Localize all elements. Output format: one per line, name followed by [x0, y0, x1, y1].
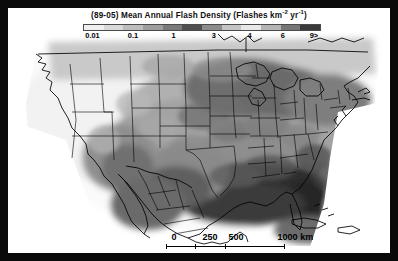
colorbar-segment-5 [222, 25, 242, 30]
colorbar-segment-8 [281, 25, 301, 30]
scale-bar-tick-1 [195, 244, 196, 249]
colorbar-tick-0.01: 0.01 [85, 31, 99, 40]
scale-bar-label-0: 0 [171, 232, 176, 242]
colorbar-segment-4 [202, 25, 222, 30]
colorbar-segment-3 [182, 25, 202, 30]
colorbar-segment-2 [163, 25, 183, 30]
colorbar-tick-3: 3 [212, 31, 216, 40]
legend-title: (89-05) Mean Annual Flash Density (Flash… [8, 9, 390, 20]
colorbar-segment-1 [143, 25, 163, 30]
legend: (89-05) Mean Annual Flash Density (Flash… [8, 8, 390, 44]
colorbar[interactable] [83, 24, 321, 31]
scale-bar-label-3: 1000 km [278, 232, 314, 242]
colorbar-segment-0.1 [104, 25, 124, 30]
scale-bar-label-1: 250 [202, 232, 217, 242]
colorbar-tick-9: 9> [310, 31, 318, 40]
scale-bar-label-2: 500 [228, 232, 243, 242]
colorbar-tick-1: 1 [171, 31, 175, 40]
colorbar-segment-9 [300, 25, 320, 30]
map-svg [8, 8, 390, 253]
figure-frame: (89-05) Mean Annual Flash Density (Flash… [0, 0, 398, 261]
scale-bar-tick-3 [284, 244, 285, 249]
colorbar-tick-4: 4 [248, 31, 252, 40]
colorbar-tick-0.1: 0.1 [128, 31, 138, 40]
colorbar-tick-labels: 0.010.113469> [83, 31, 321, 42]
scale-bar-rule [166, 244, 284, 247]
map-canvas: (89-05) Mean Annual Flash Density (Flash… [8, 8, 390, 253]
colorbar-tick-6: 6 [281, 31, 285, 40]
scale-bar: 02505001000 km [158, 232, 298, 252]
colorbar-segment-7 [261, 25, 281, 30]
flash-density-map [8, 8, 390, 253]
colorbar-segment-0.3 [123, 25, 143, 30]
scale-bar-tick-0 [166, 244, 167, 249]
exponent-km: -2 [282, 9, 288, 15]
exponent-yr: -1 [298, 9, 304, 15]
scale-bar-tick-2 [225, 244, 226, 249]
colorbar-segment-6 [241, 25, 261, 30]
colorbar-segment-0.01 [84, 25, 104, 30]
